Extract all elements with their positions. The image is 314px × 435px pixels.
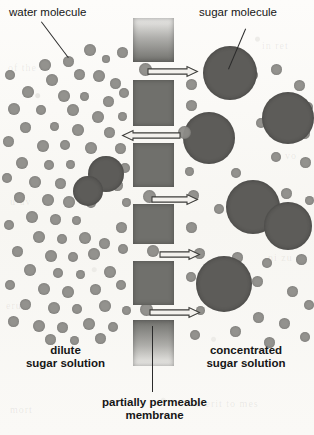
- dilute-solution-label-line1: dilute: [0, 344, 131, 357]
- water-molecule: [271, 64, 282, 75]
- water-molecule: [79, 232, 91, 244]
- water-molecule: [37, 140, 49, 152]
- dilute-solution-label: dilute sugar solution: [0, 344, 131, 370]
- arrow-4-rightward: [160, 249, 200, 260]
- water-molecule: [88, 248, 100, 260]
- water-molecule: [29, 176, 41, 188]
- water-molecule: [281, 188, 292, 199]
- water-molecule: [104, 266, 116, 278]
- water-molecule: [231, 168, 241, 178]
- water-molecule: [99, 238, 110, 249]
- water-molecule: [45, 250, 57, 262]
- water-molecule: [287, 286, 298, 297]
- water-molecule: [48, 302, 60, 314]
- water-molecule: [116, 280, 126, 290]
- water-molecule: [103, 96, 114, 107]
- water-molecule: [63, 196, 75, 208]
- water-molecule: [33, 320, 45, 332]
- water-molecule: [3, 136, 14, 147]
- concentrated-solution-label-line1: concentrated: [178, 344, 314, 357]
- water-molecule: [8, 316, 19, 327]
- sugar-molecule: [264, 202, 312, 250]
- water-molecule: [93, 70, 105, 82]
- water-molecule: [50, 214, 61, 225]
- sugar-molecule: [196, 256, 252, 312]
- water-molecule: [271, 152, 281, 162]
- water-molecule: [20, 122, 31, 133]
- water-molecule: [119, 88, 129, 98]
- water-molecule: [85, 142, 97, 154]
- membrane-block: [133, 143, 174, 187]
- concentrated-solution-label: concentrated sugar solution: [178, 344, 314, 370]
- water-molecule: [42, 194, 54, 206]
- osmosis-diagram: of thein retu uva voerutni zuu erit to m…: [0, 0, 314, 435]
- water-molecule: [14, 192, 25, 203]
- water-molecule: [115, 143, 126, 154]
- water-molecule: [63, 56, 74, 67]
- water-molecule: [26, 211, 38, 223]
- water-molecule: [76, 270, 85, 279]
- water-molecule: [186, 222, 197, 233]
- water-molecule: [12, 246, 23, 257]
- water-molecule: [50, 122, 59, 131]
- water-molecule: [74, 69, 85, 80]
- water-molecule: [118, 112, 127, 121]
- water-molecule: [253, 312, 264, 323]
- water-molecule-label: water molecule: [9, 6, 86, 19]
- membrane-block: [133, 204, 174, 244]
- water-molecule: [66, 160, 75, 169]
- water-molecule: [24, 264, 36, 276]
- water-molecule: [262, 258, 272, 268]
- water-molecule: [2, 173, 12, 183]
- water-molecule: [92, 111, 104, 123]
- water-molecule: [118, 244, 128, 254]
- water-molecule: [4, 220, 14, 230]
- water-molecule: [60, 140, 70, 150]
- ghost-text: mort: [10, 404, 33, 415]
- water-molecule: [116, 222, 127, 233]
- sugar-molecule: [262, 92, 314, 144]
- arrow-2-leftward: [122, 130, 180, 141]
- water-molecule: [53, 268, 63, 278]
- sugar-molecule: [183, 112, 235, 164]
- water-molecule: [46, 74, 58, 86]
- water-molecule: [108, 322, 118, 332]
- water-molecule: [185, 167, 194, 176]
- water-molecule: [122, 306, 131, 315]
- water-molecule: [186, 100, 197, 111]
- arrow-5-rightward: [150, 307, 200, 318]
- water-molecule: [33, 231, 45, 243]
- water-molecule: [90, 284, 101, 295]
- water-molecule: [57, 234, 67, 244]
- membrane-label-line1: partially permeable: [62, 396, 247, 409]
- water-molecule: [58, 90, 70, 102]
- water-molecule: [16, 157, 28, 169]
- water-molecule: [38, 283, 50, 295]
- water-molecule: [305, 196, 314, 205]
- arrow-3-rightward: [152, 194, 198, 205]
- water-molecule: [72, 124, 84, 136]
- arrow-1-rightward: [148, 66, 198, 77]
- water-molecule: [122, 198, 131, 207]
- water-molecule: [294, 80, 305, 91]
- water-molecule: [110, 78, 121, 89]
- membrane-block: [133, 261, 174, 305]
- water-molecule: [279, 318, 290, 329]
- membrane-block: [133, 18, 174, 62]
- membrane-label-line2: membrane: [62, 409, 247, 422]
- water-molecule: [44, 160, 54, 170]
- membrane-block: [133, 320, 174, 366]
- water-molecule: [186, 79, 197, 90]
- water-molecule: [8, 103, 20, 115]
- water-molecule: [5, 70, 15, 80]
- ghost-text: in ret: [262, 40, 289, 51]
- water-molecule: [55, 178, 66, 189]
- water-molecule: [230, 326, 241, 337]
- membrane-label: partially permeable membrane: [62, 396, 247, 422]
- water-molecule: [186, 272, 196, 282]
- sugar-molecule-label: sugar molecule: [199, 6, 277, 19]
- membrane-block: [133, 80, 174, 126]
- water-molecule: [57, 322, 68, 333]
- water-molecule: [214, 204, 224, 214]
- water-molecule: [304, 300, 314, 310]
